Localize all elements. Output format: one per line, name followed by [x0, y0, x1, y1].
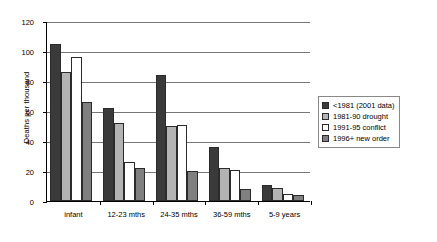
bar	[283, 194, 294, 202]
bar	[61, 72, 72, 201]
bar-chart: Deaths per thousand 020406080100120 infa…	[0, 0, 437, 242]
chart-legend: <1981 (2001 data)1981-90 drought1991-95 …	[318, 96, 400, 148]
bar	[166, 126, 177, 201]
x-axis-tick	[205, 201, 206, 205]
y-axis-tick-label: 40	[26, 138, 34, 147]
bar	[293, 195, 304, 201]
legend-item: 1996+ new order	[322, 133, 395, 144]
bar	[230, 170, 241, 202]
legend-swatch-icon	[322, 102, 329, 109]
legend-item-label: 1991-95 conflict	[333, 124, 386, 132]
x-axis-tick	[100, 201, 101, 205]
x-axis-label: 12-23 mths	[107, 210, 145, 219]
bar	[262, 185, 273, 202]
x-axis-label: infant	[64, 210, 82, 219]
bar-group: 5-9 years	[258, 22, 311, 201]
y-axis-tick-label: 20	[26, 168, 34, 177]
y-axis-tick-label: 60	[26, 108, 34, 117]
y-axis-tick-label: 80	[26, 78, 34, 87]
bar	[240, 189, 251, 201]
legend-swatch-icon	[322, 113, 329, 120]
bar	[177, 125, 188, 202]
x-axis-label: 36-59 mths	[213, 210, 251, 219]
legend-item: <1981 (2001 data)	[322, 100, 395, 111]
y-axis-tick-label: 0	[30, 198, 34, 207]
bar-group: 36-59 mths	[205, 22, 258, 201]
legend-swatch-icon	[322, 135, 329, 142]
legend-swatch-icon	[322, 124, 329, 131]
bar	[135, 168, 146, 201]
x-axis-tick	[153, 201, 154, 205]
bar	[103, 108, 114, 201]
y-axis-tick-label: 120	[21, 18, 34, 27]
bar	[209, 147, 220, 201]
x-axis-label: 24-35 mths	[160, 210, 198, 219]
legend-item: 1981-90 drought	[322, 111, 395, 122]
plot-area: 020406080100120 infant12-23 mths24-35 mt…	[46, 22, 310, 202]
x-axis-label: 5-9 years	[269, 210, 300, 219]
bar	[82, 102, 93, 201]
legend-item-label: <1981 (2001 data)	[333, 102, 395, 110]
bar	[124, 162, 135, 201]
bar-group: 24-35 mths	[153, 22, 206, 201]
y-axis-tick	[43, 202, 47, 203]
bar	[272, 188, 283, 202]
x-axis-tick	[311, 201, 312, 205]
x-axis-tick	[258, 201, 259, 205]
legend-item: 1991-95 conflict	[322, 122, 395, 133]
bar	[156, 75, 167, 201]
bar-group: infant	[47, 22, 100, 201]
y-axis-tick-label: 100	[21, 48, 34, 57]
bar	[114, 123, 125, 201]
legend-item-label: 1996+ new order	[333, 135, 390, 143]
bar	[50, 44, 61, 202]
bar-group: 12-23 mths	[100, 22, 153, 201]
bar	[187, 171, 198, 201]
bar	[71, 57, 82, 201]
legend-item-label: 1981-90 drought	[333, 113, 388, 121]
bar	[219, 168, 230, 201]
